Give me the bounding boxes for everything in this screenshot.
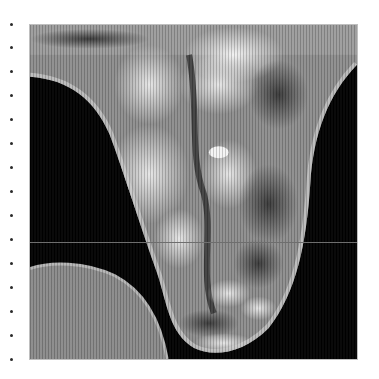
ruler-dot [10,70,13,73]
scanline-overlay [30,25,357,359]
horizontal-reference-line [30,242,357,243]
ruler-dot [10,46,13,49]
left-dotted-ruler [10,0,15,379]
scan-image-frame [29,24,358,360]
ruler-dot [10,310,13,313]
ruler-dot [10,94,13,97]
ruler-dot [10,262,13,265]
ruler-dot [10,23,13,26]
ruler-dot [10,142,13,145]
ruler-dot [10,238,13,241]
ruler-dot [10,286,13,289]
ruler-dot [10,214,13,217]
ruler-dot [10,166,13,169]
ruler-dot [10,118,13,121]
ruler-dot [10,190,13,193]
ruler-dot [10,334,13,337]
ruler-dot [10,358,13,361]
